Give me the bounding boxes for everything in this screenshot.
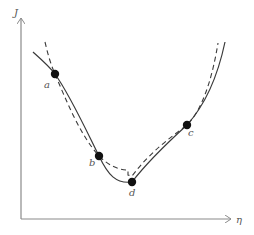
solid-curve [33,42,225,182]
point-a [51,70,59,78]
point-a-label: a [44,79,50,90]
point-b [95,152,103,160]
y-axis-label: J [12,7,19,18]
point-d [128,178,136,186]
x-axis-label: η [236,214,242,225]
diagram-figure: J η a b d c [0,0,254,235]
point-c-label: c [188,127,194,138]
point-d-label: d [129,187,135,198]
dashed-curve [45,42,218,176]
point-b-label: b [89,157,95,168]
axes: J η [12,7,242,225]
data-points: a b d c [44,70,194,198]
